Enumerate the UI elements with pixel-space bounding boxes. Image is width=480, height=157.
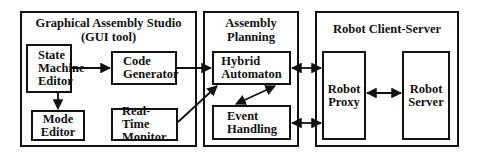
node-label: Generator bbox=[123, 68, 179, 81]
group-title-gas-line1: Graphical Assembly Studio bbox=[22, 17, 195, 30]
node-label: Mode bbox=[41, 113, 76, 126]
node-real-time-monitor: Real-Time Monitor bbox=[111, 108, 178, 141]
node-label: Monitor bbox=[122, 131, 176, 144]
group-title-ap-line2: Planning bbox=[205, 31, 297, 44]
node-label: Robot bbox=[328, 83, 361, 96]
group-title-ap-line1: Assembly bbox=[205, 17, 297, 30]
node-code-generator: Code Generator bbox=[111, 51, 177, 85]
node-mode-editor: Mode Editor bbox=[31, 110, 85, 141]
node-hybrid-automaton: Hybrid Automaton bbox=[212, 51, 291, 85]
node-label: Automaton bbox=[221, 68, 281, 81]
node-event-handling: Event Handling bbox=[212, 105, 291, 140]
node-label: Server bbox=[408, 96, 443, 109]
node-label: Real-Time bbox=[122, 105, 176, 131]
node-label: Event bbox=[227, 110, 277, 123]
node-label: Editor bbox=[38, 75, 85, 88]
node-label: Editor bbox=[41, 126, 76, 139]
group-title-rcs: Robot Client-Server bbox=[317, 23, 457, 36]
node-label: Robot bbox=[408, 83, 443, 96]
node-label: Proxy bbox=[328, 96, 361, 109]
node-state-machine-editor: State Machine Editor bbox=[26, 44, 72, 93]
node-label: Handling bbox=[227, 123, 277, 136]
group-title-gas-line2: (GUI tool) bbox=[22, 31, 195, 44]
node-robot-server: Robot Server bbox=[402, 51, 450, 140]
node-robot-proxy: Robot Proxy bbox=[322, 51, 366, 140]
